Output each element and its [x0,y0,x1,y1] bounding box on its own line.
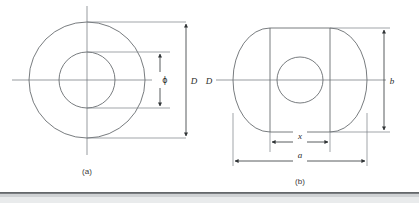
b-dimension-label: b [390,76,395,86]
panel-a: ϕ D (a) [12,6,202,176]
b-dimension-b: b [384,30,399,130]
phi-dimension-a: ϕ [152,54,168,106]
d-label-group-b: D [203,72,216,88]
caption-a: (a) [82,167,92,176]
a-dimension-label: a [298,150,303,160]
divider-dark-line [0,192,419,194]
divider-soft-band [0,194,419,197]
d-dimension-label-b: D [205,76,213,86]
d-dimension-a: D [186,24,202,136]
divider-pale-band [0,197,419,203]
x-dimension-label: x [297,131,302,141]
panel-b: D b x [203,28,399,186]
d-dimension-label: D [190,76,198,86]
technical-figure: ϕ D (a) D [0,0,419,203]
a-dimension-b: a [235,149,365,162]
caption-b: (b) [295,177,305,186]
engineering-drawing-canvas: ϕ D (a) D [0,0,419,203]
page-divider [0,192,419,203]
phi-dimension-label: ϕ [162,76,167,85]
